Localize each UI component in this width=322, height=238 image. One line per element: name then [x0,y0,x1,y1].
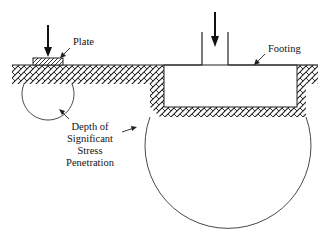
footing-label: Footing [268,43,301,54]
depth-label-line2: Significant [67,133,113,144]
depth-label-line3: Stress [77,145,102,156]
depth-label-line1: Depth of [71,121,109,132]
plate-leader-arrow-icon [60,48,70,58]
plate-label: Plate [73,36,94,47]
footing-stress-bulb [145,117,311,228]
plate-load-arrow-icon [44,25,52,57]
footing-leader-arrow-icon [254,54,265,65]
plate-stress-bulb [22,84,74,120]
footing-load-arrow-icon [211,12,219,47]
depth-label-line4: Penetration [66,157,115,168]
diagram-canvas: Plate Footing Depth of Significant Stres… [0,0,322,238]
plate [33,58,63,65]
